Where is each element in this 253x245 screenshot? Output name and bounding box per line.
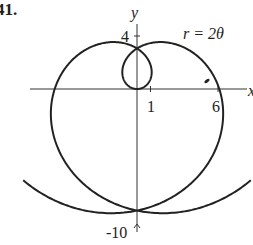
problem-number: 41.	[0, 0, 17, 19]
x-axis-label: x	[247, 82, 253, 99]
y-axis-label: y	[129, 4, 139, 22]
equation-label: r = 2θ	[183, 25, 224, 42]
stray-mark	[204, 78, 211, 84]
x-tick-label-1: 1	[147, 98, 155, 115]
y-tick-label-minus-10: -10	[106, 224, 127, 241]
x-tick-label-6: 6	[212, 98, 220, 115]
polar-plot: 41. y x 4 1 6 -10 r = 2θ	[0, 0, 253, 245]
